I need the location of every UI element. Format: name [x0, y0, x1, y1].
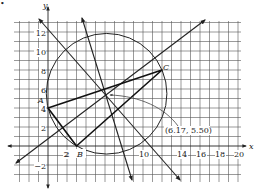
y-axis-label: y — [42, 1, 48, 10]
svg-text:10: 10 — [36, 48, 46, 57]
circumcenter-label: (6.17, 5.50) — [165, 126, 212, 135]
svg-text:−2: −2 — [34, 162, 46, 171]
svg-text:4: 4 — [41, 105, 46, 114]
svg-text:10: 10 — [139, 150, 149, 159]
svg-text:16: 16 — [196, 150, 206, 159]
vertex-a-label: A — [37, 96, 44, 105]
svg-text:8: 8 — [41, 67, 46, 76]
bisector-bc — [39, 19, 180, 180]
figure-marker: • — [0, 0, 5, 8]
svg-text:6: 6 — [41, 86, 46, 95]
vertex-b-label: B — [76, 150, 83, 159]
svg-text:2: 2 — [41, 124, 46, 133]
svg-text:20: 20 — [234, 150, 244, 159]
vertex-c-label: C — [163, 63, 169, 72]
svg-text:14: 14 — [177, 150, 187, 159]
circumcircle — [46, 33, 167, 154]
svg-text:18: 18 — [215, 150, 225, 159]
x-axis-label: x — [249, 142, 254, 151]
leader-arrow — [110, 95, 178, 126]
svg-text:12: 12 — [36, 29, 46, 38]
circumcircle-diagram: • — [0, 0, 256, 192]
label-two-near-b: 2 — [64, 150, 69, 159]
